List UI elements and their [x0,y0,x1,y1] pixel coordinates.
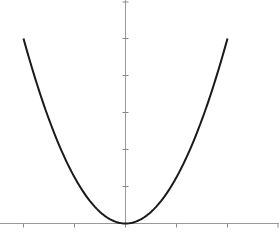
x-ticks [24,224,279,228]
parabola-chart [0,0,279,235]
